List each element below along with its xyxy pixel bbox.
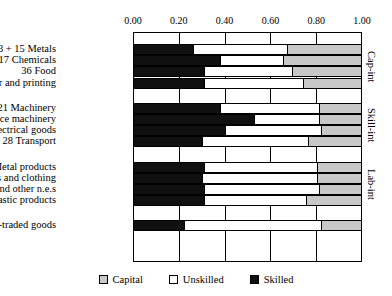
bar-row	[133, 114, 362, 125]
bar-row	[133, 55, 362, 66]
bar-segment-skilled	[134, 185, 204, 194]
bar-row	[133, 78, 362, 89]
bar-segment-capital	[293, 67, 361, 76]
category-label: 47 Paper and printing	[0, 77, 56, 88]
bar-segment-unskilled	[225, 126, 323, 135]
stacked-bar	[133, 66, 362, 77]
bar-segment-skilled	[134, 67, 204, 76]
bar-row	[133, 162, 362, 173]
bar-segment-capital	[304, 79, 361, 88]
category-label: 36 Food	[0, 65, 56, 76]
category-label: 17 Chemicals	[0, 54, 56, 65]
bar-segment-capital	[309, 137, 361, 146]
stacked-bar	[133, 220, 362, 231]
x-tick-label: 0.60	[262, 15, 280, 26]
category-label: 25 Electrical goods	[0, 124, 56, 135]
stacked-bar	[133, 195, 362, 206]
bar-row	[133, 136, 362, 147]
bar-row	[133, 220, 362, 231]
stacked-bar	[133, 125, 362, 136]
bar-segment-unskilled	[202, 174, 318, 183]
bar-segment-unskilled	[202, 137, 309, 146]
bar-segment-unskilled	[184, 221, 322, 230]
bar-segment-unskilled	[254, 115, 320, 124]
chart-legend: Capital Unskilled Skilled	[0, 274, 392, 285]
legend-item-skilled: Skilled	[250, 274, 294, 285]
category-label: 28 Transport	[0, 135, 56, 146]
bar-segment-capital	[320, 104, 361, 113]
legend-label-skilled: Skilled	[264, 274, 294, 285]
bar-segment-capital	[320, 185, 361, 194]
stacked-bar	[133, 184, 362, 195]
bar-segment-skilled	[134, 79, 204, 88]
bar-segment-capital	[318, 174, 361, 183]
bar-row	[133, 125, 362, 136]
category-label: 21 Machinery	[0, 102, 56, 113]
x-tick-label: 0.80	[307, 15, 325, 26]
bar-row	[133, 173, 362, 184]
bar-segment-unskilled	[220, 56, 284, 65]
stacked-bar-chart: 0.000.200.400.600.801.00 13 + 15 Metals1…	[0, 0, 392, 296]
bar-segment-capital	[284, 56, 361, 65]
x-tick-label: 1.00	[353, 15, 371, 26]
bar-segment-skilled	[134, 163, 204, 172]
group-label: Skill-int	[366, 103, 377, 148]
legend-label-capital: Capital	[113, 274, 143, 285]
bar-row	[133, 66, 362, 77]
legend-item-unskilled: Unskilled	[169, 274, 224, 285]
category-label: 48 Timber and other n.e.s	[0, 183, 56, 194]
bar-segment-skilled	[134, 45, 193, 54]
category-label: 19 Metal products	[0, 161, 56, 172]
bar-segment-unskilled	[204, 79, 304, 88]
stacked-bar	[133, 78, 362, 89]
group-label: Cap-int	[366, 44, 377, 89]
legend-item-capital: Capital	[99, 274, 143, 285]
category-label: 13 + 15 Metals	[0, 43, 56, 54]
x-tick-label: 0.40	[216, 15, 234, 26]
bar-row	[133, 44, 362, 55]
x-tick-label: 0.00	[124, 15, 142, 26]
capital-swatch-icon	[99, 275, 108, 284]
x-tick-label: 0.20	[170, 15, 188, 26]
bar-segment-unskilled	[204, 67, 293, 76]
bar-segment-unskilled	[204, 185, 320, 194]
stacked-bar	[133, 103, 362, 114]
category-label: 23 Office machinery	[0, 113, 56, 124]
stacked-bar	[133, 136, 362, 147]
stacked-bar	[133, 44, 362, 55]
bar-segment-skilled	[134, 115, 254, 124]
bar-segment-skilled	[134, 137, 202, 146]
bar-row	[133, 103, 362, 114]
skilled-swatch-icon	[250, 275, 259, 284]
bar-segment-capital	[307, 196, 361, 205]
bar-segment-capital	[288, 45, 361, 54]
bar-segment-skilled	[134, 104, 220, 113]
unskilled-swatch-icon	[169, 275, 178, 284]
stacked-bar	[133, 114, 362, 125]
group-label: Lab-int	[366, 162, 377, 207]
bar-row	[133, 184, 362, 195]
bar-segment-skilled	[134, 126, 225, 135]
bar-segment-capital	[320, 115, 361, 124]
bar-segment-capital	[322, 126, 361, 135]
category-label: 42 Textiles and clothing	[0, 172, 56, 183]
bar-segment-capital	[318, 163, 361, 172]
category-label: Non-traded goods	[0, 219, 56, 230]
bar-segment-skilled	[134, 174, 202, 183]
bar-segment-unskilled	[193, 45, 288, 54]
bar-row	[133, 195, 362, 206]
stacked-bar	[133, 162, 362, 173]
bar-segment-unskilled	[220, 104, 320, 113]
bar-segment-skilled	[134, 56, 220, 65]
bar-segment-skilled	[134, 221, 184, 230]
bar-segment-capital	[322, 221, 361, 230]
stacked-bar	[133, 173, 362, 184]
bar-segment-unskilled	[204, 196, 306, 205]
bar-segment-skilled	[134, 196, 204, 205]
bar-segment-unskilled	[204, 163, 318, 172]
category-label: 49 Plastic products	[0, 194, 56, 205]
stacked-bar	[133, 55, 362, 66]
legend-label-unskilled: Unskilled	[183, 274, 224, 285]
